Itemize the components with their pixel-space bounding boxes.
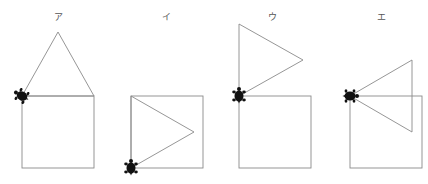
figure: ア イ ウ エ <box>0 0 428 184</box>
panel-label-i: イ <box>162 10 171 23</box>
triangle-shape <box>239 24 303 96</box>
turtle-drawings <box>0 0 428 184</box>
square-shape <box>239 96 311 168</box>
panel-label-e: エ <box>377 10 386 23</box>
square-shape <box>131 96 203 168</box>
triangle-shape <box>22 32 94 96</box>
triangle-shape <box>131 96 194 168</box>
square-shape <box>22 96 94 168</box>
panel-i <box>124 96 203 176</box>
panel-label-u: ウ <box>268 10 277 23</box>
panel-u <box>232 24 311 168</box>
turtle-icon <box>232 87 246 104</box>
panel-e <box>343 60 423 168</box>
panel-a <box>11 32 94 168</box>
turtle-icon <box>343 89 360 103</box>
turtle-icon <box>124 159 138 176</box>
panel-label-a: ア <box>54 10 63 23</box>
